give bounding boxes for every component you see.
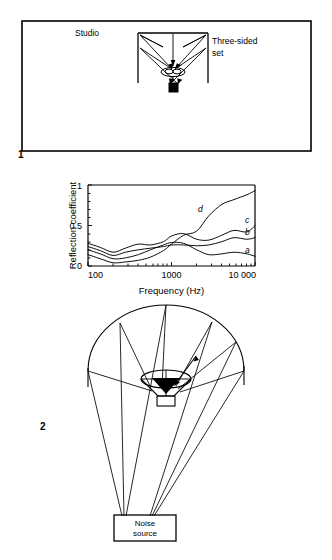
x-axis-title: Frequency (Hz) xyxy=(139,285,204,296)
receiver-group xyxy=(141,370,191,406)
figure-1-number: 1 xyxy=(18,150,24,160)
three-sided-set-label-line1: Three-sided xyxy=(212,36,258,46)
curve-label-b: b xyxy=(245,227,250,237)
chart-axes xyxy=(88,185,255,266)
noise-source-label-line2: source xyxy=(133,529,158,538)
dome-to-noise-source-rays xyxy=(88,305,244,516)
x-tick-label-1000: 1000 xyxy=(161,270,181,280)
sound-source-block xyxy=(169,83,178,92)
dome-arc xyxy=(88,305,244,371)
y-axis-title: Reflection coefficient xyxy=(67,181,78,269)
studio-label: Studio xyxy=(75,28,99,38)
x-tick-label-10000: 10 000 xyxy=(228,270,256,280)
chart-canvas: d c b a 0 0.5 1 100 1000 10 000 Frequenc… xyxy=(0,175,332,305)
noise-source-label-line1: Noise xyxy=(135,519,156,528)
figure-3-drawing: Noise source xyxy=(0,300,332,560)
curve-label-c: c xyxy=(245,215,250,225)
curve-label-d: d xyxy=(198,204,203,214)
chart-series-group xyxy=(88,191,255,263)
studio-room-outline xyxy=(22,21,311,151)
curve-label-a: a xyxy=(245,245,250,255)
three-sided-set-label-line2: set xyxy=(212,48,224,58)
figure-2-reflection-coefficient-chart: d c b a 0 0.5 1 100 1000 10 000 Frequenc… xyxy=(0,175,332,305)
figure-3-dome-noise-source: Noise source 3 xyxy=(0,300,332,560)
x-tick-label-100: 100 xyxy=(88,270,103,280)
figure-1-drawing: Studio Three-sided set xyxy=(0,0,332,175)
figure-1-studio-plan: Studio Three-sided set 1 xyxy=(0,0,332,175)
